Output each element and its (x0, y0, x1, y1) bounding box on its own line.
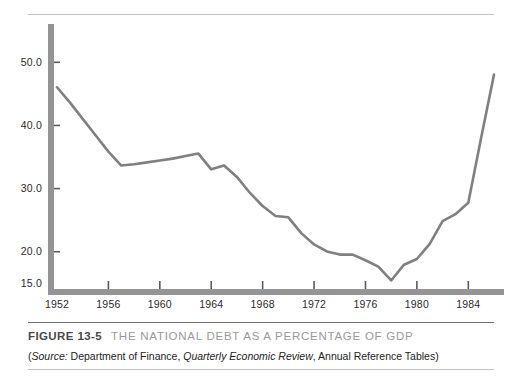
y-tick-mark (54, 251, 60, 253)
y-tick-label: 30.0 (21, 182, 42, 194)
y-axis (48, 24, 54, 292)
x-tick-mark (108, 281, 110, 289)
x-tick-mark (365, 281, 367, 289)
top-divider-rule (28, 14, 494, 15)
y-tick-mark (54, 62, 60, 64)
caption-source-line: (Source: Department of Finance, Quarterl… (28, 349, 498, 363)
x-tick-label: 1984 (456, 298, 480, 310)
x-tick-label: 1956 (96, 298, 120, 310)
series-line-national-debt (57, 75, 494, 281)
x-tick-label: 1960 (148, 298, 172, 310)
x-tick-labels: 195219561960196419681972197619801984 (45, 298, 480, 310)
y-axis-bar (48, 24, 54, 292)
y-tick-label: 50.0 (21, 56, 42, 68)
caption-title-line: FIGURE 13-5THE NATIONAL DEBT AS A PERCEN… (28, 327, 498, 344)
page-title: THE NATIONAL DEBT AS A PERCENTAGE OF GDP (111, 330, 413, 342)
x-tick-mark (467, 281, 469, 289)
x-tick-mark (313, 281, 315, 289)
figure-number: FIGURE 13-5 (28, 330, 102, 342)
x-tick-mark (262, 281, 264, 289)
x-tick-label: 1980 (405, 298, 429, 310)
figure-caption: FIGURE 13-5THE NATIONAL DEBT AS A PERCEN… (28, 327, 498, 363)
x-tick-mark (210, 281, 212, 289)
y-tick-mark (54, 188, 60, 190)
x-axis-bar (48, 289, 504, 295)
x-tick-label: 1972 (302, 298, 326, 310)
figure-13-5-container: 15.020.030.040.050.0 1952195619601964196… (0, 0, 518, 377)
x-axis (48, 289, 504, 295)
y-tick-mark (54, 125, 60, 127)
source-text-part-2: , Annual Reference Tables) (313, 350, 439, 362)
chart-plot-area: 15.020.030.040.050.0 1952195619601964196… (0, 18, 518, 314)
x-tick-marks (108, 281, 469, 289)
source-label: Source: (32, 350, 68, 362)
data-series-line (57, 75, 494, 281)
x-tick-label: 1964 (199, 298, 223, 310)
y-tick-label: 40.0 (21, 119, 42, 131)
caption-divider-rule (28, 322, 494, 323)
source-text-part-1: Department of Finance, (68, 350, 184, 362)
x-tick-mark (416, 281, 418, 289)
bottom-divider-rule (28, 369, 494, 370)
source-publication-title: Quarterly Economic Review (183, 350, 313, 362)
y-tick-label: 15.0 (21, 277, 42, 289)
x-tick-label: 1968 (251, 298, 275, 310)
x-tick-mark (159, 281, 161, 289)
x-tick-label: 1976 (353, 298, 377, 310)
y-tick-labels: 15.020.030.040.050.0 (21, 56, 42, 289)
national-debt-line-chart: 15.020.030.040.050.0 1952195619601964196… (0, 18, 518, 314)
y-tick-label: 20.0 (21, 245, 42, 257)
x-tick-label: 1952 (45, 298, 69, 310)
